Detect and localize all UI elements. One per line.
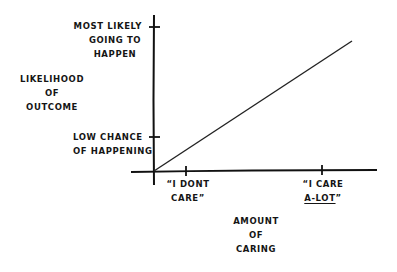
y-axis [154, 15, 155, 185]
label-line: Of Happening [73, 144, 153, 158]
label-line: Caring [226, 242, 286, 256]
y-tick-label-low: Low Chance Of Happening [73, 130, 153, 158]
label-line: Amount [226, 214, 286, 228]
label-line: “I Care [290, 177, 356, 191]
label-line: Most Likely [74, 19, 142, 33]
x-axis-title: Amount Of Caring [226, 214, 286, 256]
underlined-text: A-Lot [304, 193, 335, 203]
label-line: “I Dont [156, 177, 220, 191]
y-tick-label-top-2: Going To Happen [80, 33, 150, 61]
data-line [154, 41, 352, 171]
label-line: Outcome [14, 100, 90, 114]
y-axis-title: Likelihood Of Outcome [14, 72, 90, 114]
label-line: Low Chance [73, 130, 153, 144]
label-line: Of [226, 228, 286, 242]
label-line: Going To [80, 33, 150, 47]
x-tick-label-dont-care: “I Dont Care” [156, 177, 220, 205]
chart-canvas [0, 0, 397, 272]
label-line: A-Lot” [290, 191, 356, 205]
close-quote: ” [336, 193, 342, 203]
label-line: Care” [156, 191, 220, 205]
x-tick-label-care-a-lot: “I Care A-Lot” [290, 177, 356, 205]
y-tick-label-top: Most Likely [74, 19, 142, 33]
x-axis [131, 170, 377, 172]
label-line: Likelihood [14, 72, 90, 86]
label-line: Happen [80, 47, 150, 61]
label-line: Of [14, 86, 90, 100]
